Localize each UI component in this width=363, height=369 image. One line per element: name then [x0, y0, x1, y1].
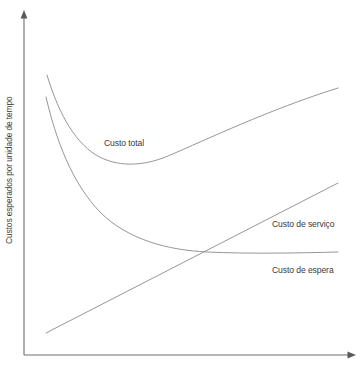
cost-curves-chart: Custo total Custo de serviço Custo de es… [0, 0, 363, 369]
series-curve-custo-total [47, 75, 338, 164]
series-label-custo-de-espera: Custo de espera [272, 265, 334, 275]
series-label-custo-total: Custo total [104, 138, 144, 148]
x-axis-arrowhead-icon [348, 352, 357, 359]
chart-container: Custo total Custo de serviço Custo de es… [0, 0, 363, 369]
y-axis-arrowhead-icon [21, 10, 28, 19]
series-label-custo-de-servico: Custo de serviço [272, 219, 335, 229]
y-axis-title: Custos esperados por unidade de tempo [4, 96, 14, 244]
series-line-custo-de-servico [46, 183, 338, 333]
series-curve-custo-de-espera [46, 97, 338, 253]
